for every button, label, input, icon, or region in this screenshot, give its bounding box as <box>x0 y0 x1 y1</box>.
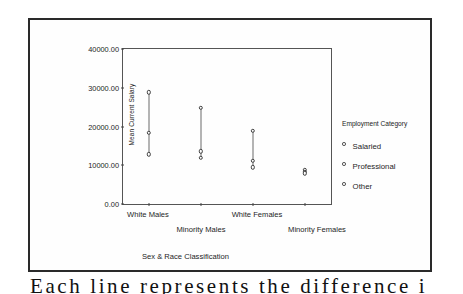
page-caption-fragment: Each line represents the difference i <box>30 274 463 294</box>
y-tick-mark <box>121 87 124 88</box>
data-point <box>147 90 151 94</box>
data-point <box>147 152 151 156</box>
y-tick-label: 40000.00 <box>88 45 119 54</box>
legend-item-other: Other <box>342 176 452 196</box>
y-tick-label: 0.00 <box>105 200 119 209</box>
y-tick-mark <box>121 165 124 166</box>
x-tick-mark <box>305 203 306 206</box>
legend-item-salaried: Salaried <box>342 136 452 156</box>
x-tick-label-white-females: White Females <box>232 210 283 219</box>
data-point <box>251 129 255 133</box>
data-point <box>251 165 255 169</box>
x-tick-mark <box>253 203 254 206</box>
y-tick-label: 10000.00 <box>88 161 119 170</box>
data-point <box>147 131 151 135</box>
y-tick-mark <box>121 126 124 127</box>
x-tick-label-minority-females: Minority Females <box>288 225 346 234</box>
open-circle-icon <box>342 142 346 146</box>
data-point <box>199 105 203 109</box>
y-tick-label: 30000.00 <box>88 83 119 92</box>
plot-area: Mean Current Salary 40000.00 30000.00 20… <box>122 48 332 205</box>
data-point <box>303 171 307 175</box>
x-tick-mark <box>149 203 150 206</box>
open-circle-icon <box>342 182 346 186</box>
y-axis-title: Mean Current Salary <box>128 55 135 175</box>
x-axis-title: Sex & Race Classification <box>142 252 229 261</box>
x-tick-label-white-males: White Males <box>127 210 169 219</box>
x-tick-mark <box>201 203 202 206</box>
y-tick-label: 20000.00 <box>88 122 119 131</box>
y-tick-mark <box>121 49 124 50</box>
data-point <box>199 149 203 153</box>
y-tick-mark <box>121 204 124 205</box>
legend: Employment Category Salaried Professiona… <box>342 120 452 196</box>
legend-item-label: Other <box>353 182 373 191</box>
x-tick-label-minority-males: Minority Males <box>177 225 226 234</box>
legend-item-label: Professional <box>353 162 396 171</box>
data-point <box>251 158 255 162</box>
open-circle-icon <box>342 162 346 166</box>
data-point <box>199 156 203 160</box>
connector-line <box>149 92 150 154</box>
legend-title: Employment Category <box>342 120 452 127</box>
legend-item-professional: Professional <box>342 156 452 176</box>
legend-item-label: Salaried <box>353 142 382 151</box>
figure-box: Mean Current Salary 40000.00 30000.00 20… <box>28 18 432 272</box>
